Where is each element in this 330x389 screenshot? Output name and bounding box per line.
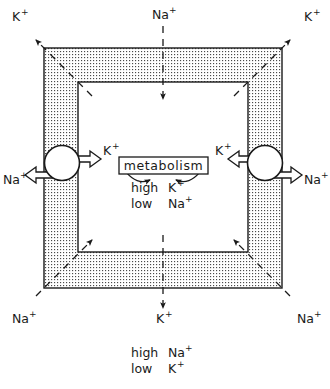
- ion-label-top-center-na-charge: +: [169, 5, 177, 15]
- pump-circle-left: [45, 146, 80, 181]
- ion-label-left-pump-k-ion: K: [103, 143, 112, 158]
- outside-condition-1-level: low: [131, 361, 152, 376]
- inside-condition-1-ion: Na: [168, 196, 185, 211]
- outside-condition-1-ion: K: [168, 361, 177, 376]
- ion-label-top-center-na-ion: Na: [152, 7, 169, 22]
- ion-label-bottom-right-na-charge: +: [314, 309, 322, 319]
- ion-label-top-left-k-charge: +: [21, 7, 29, 17]
- metabolism-group: metabolism: [119, 157, 208, 182]
- ion-label-left-outer-na-charge: +: [20, 170, 28, 180]
- ion-label-left-outer-na-ion: Na: [3, 172, 20, 187]
- outside-condition-1-charge: +: [177, 359, 185, 369]
- ion-label-left-pump-k-charge: +: [112, 141, 120, 151]
- pump-left: [25, 146, 101, 184]
- pump-circle-right: [248, 146, 283, 181]
- outside-condition-0-charge: +: [185, 343, 193, 353]
- inside-condition-1-charge: +: [185, 194, 193, 204]
- ion-label-right-pump-k-charge: +: [224, 141, 232, 151]
- pump-right: [228, 146, 302, 184]
- ion-label-bottom-center-k-charge: +: [165, 309, 173, 319]
- ion-label-bottom-left-na-ion: Na: [12, 311, 29, 326]
- metabolism-label: metabolism: [124, 158, 204, 173]
- outside-condition-0-level: high: [131, 345, 158, 360]
- ion-label-top-right-k-ion: K: [304, 9, 313, 24]
- cell-membrane-diagram: metabolism high K + low Na + high Na + l…: [0, 0, 330, 389]
- ion-label-right-outer-na-charge: +: [321, 170, 329, 180]
- ion-label-bottom-left-na-charge: +: [29, 309, 37, 319]
- inside-condition-0-charge: +: [177, 178, 185, 188]
- inside-condition-0-level: high: [131, 180, 158, 195]
- inside-condition-0-ion: K: [168, 180, 177, 195]
- outside-conditions: high Na + low K +: [131, 343, 193, 376]
- outside-condition-0-ion: Na: [168, 345, 185, 360]
- ion-label-bottom-center-k-ion: K: [156, 311, 165, 326]
- inside-condition-1-level: low: [131, 196, 152, 211]
- ion-label-bottom-right-na-ion: Na: [297, 311, 314, 326]
- diagram-page: metabolism high K + low Na + high Na + l…: [0, 0, 330, 389]
- ion-label-right-outer-na-ion: Na: [304, 172, 321, 187]
- ion-label-top-left-k-ion: K: [12, 9, 21, 24]
- ion-label-top-right-k-charge: +: [313, 7, 321, 17]
- inside-conditions: high K + low Na +: [131, 178, 193, 211]
- ion-label-right-pump-k-ion: K: [215, 143, 224, 158]
